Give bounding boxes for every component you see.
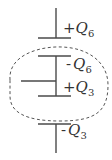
label-minus-q6: -Q6 (66, 55, 92, 75)
label-minus-q3: -Q3 (61, 121, 87, 141)
capacitor-diagram: +Q6 -Q6 +Q3 -Q3 (0, 0, 112, 160)
label-plus-q3: +Q3 (63, 78, 94, 98)
dashed-enclosure (10, 47, 108, 121)
label-plus-q6: +Q6 (63, 19, 94, 39)
